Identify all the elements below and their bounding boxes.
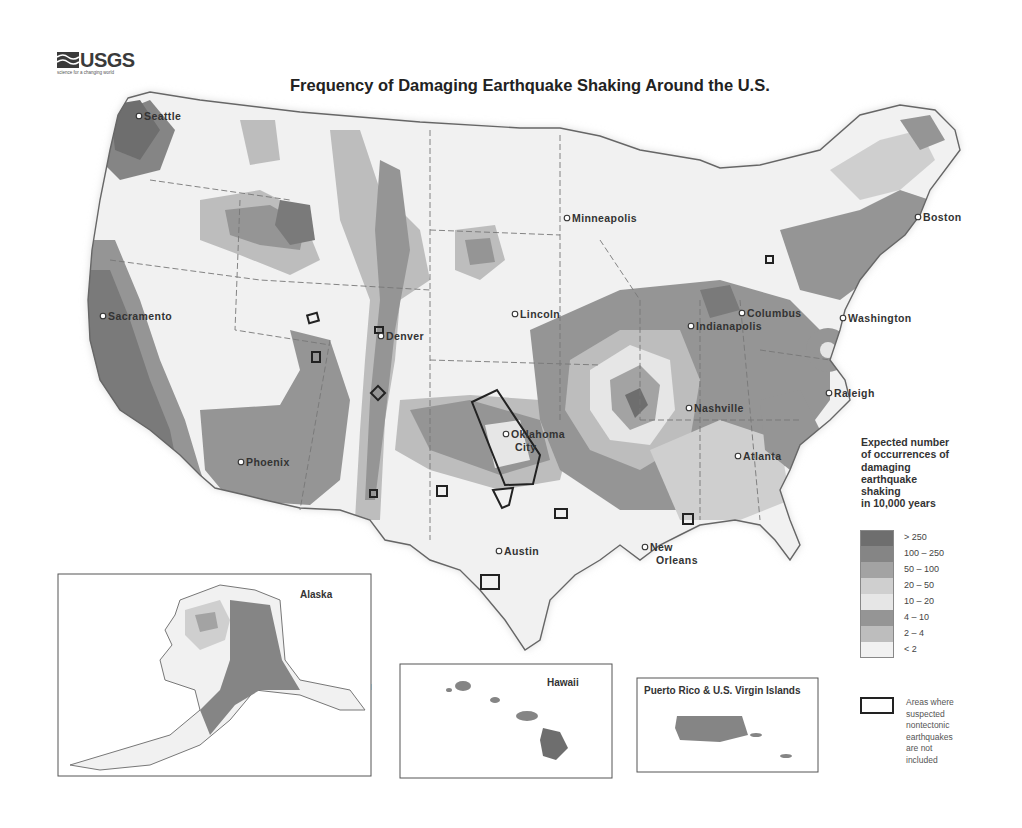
city-marker-icon bbox=[136, 113, 142, 119]
city-marker-icon bbox=[496, 548, 502, 554]
legend-item: 50 – 100 bbox=[860, 562, 990, 578]
legend-label: 100 – 250 bbox=[904, 548, 944, 558]
city-label: Denver bbox=[386, 330, 424, 342]
alaska-inset: Alaska bbox=[58, 574, 371, 776]
city-marker-icon bbox=[564, 215, 570, 221]
city-minneapolis: Minneapolis bbox=[564, 212, 637, 224]
legend-swatch bbox=[860, 610, 894, 626]
city-marker-icon bbox=[503, 431, 509, 437]
legend-label: > 250 bbox=[904, 532, 927, 542]
city-marker-icon bbox=[642, 544, 648, 550]
city-label: Orleans bbox=[656, 554, 698, 566]
city-label: Washington bbox=[848, 312, 912, 324]
city-label: Raleigh bbox=[834, 387, 875, 399]
legend-item: 4 – 10 bbox=[860, 610, 990, 626]
legend-label: 50 – 100 bbox=[904, 564, 939, 574]
hawaii-title: Hawaii bbox=[547, 677, 579, 688]
city-marker-icon bbox=[915, 214, 921, 220]
legend: > 250 100 – 250 50 – 100 20 – 50 10 – 20… bbox=[860, 530, 990, 658]
legend-title-line: shaking bbox=[861, 485, 991, 497]
city-label: City bbox=[515, 441, 536, 453]
city-label: Indianapolis bbox=[696, 320, 762, 332]
legend-swatch bbox=[860, 578, 894, 594]
city-label: Minneapolis bbox=[572, 212, 637, 224]
nontectonic-legend-label: Areas where suspected nontectonic earthq… bbox=[906, 697, 986, 766]
nontectonic-line: Areas where bbox=[906, 697, 986, 709]
hawaii-inset: Hawaii bbox=[400, 664, 612, 778]
legend-label: 10 – 20 bbox=[904, 596, 934, 606]
city-oklahoma: Oklahoma bbox=[503, 428, 565, 440]
nontectonic-line: suspected bbox=[906, 709, 986, 721]
legend-swatch bbox=[860, 642, 894, 658]
city-indianapolis: Indianapolis bbox=[688, 320, 762, 332]
city-marker-icon bbox=[826, 390, 832, 396]
legend-swatch bbox=[860, 562, 894, 578]
contiguous-us bbox=[70, 92, 960, 650]
alaska-title: Alaska bbox=[300, 589, 333, 600]
city-denver: Denver bbox=[378, 330, 424, 342]
legend-swatch bbox=[860, 546, 894, 562]
legend-label: 4 – 10 bbox=[904, 612, 929, 622]
legend-swatch bbox=[860, 530, 894, 546]
legend-swatch bbox=[860, 594, 894, 610]
city-washington: Washington bbox=[840, 312, 911, 324]
legend-label: 20 – 50 bbox=[904, 580, 934, 590]
legend-swatch bbox=[860, 626, 894, 642]
city-marker-icon bbox=[735, 453, 741, 459]
legend-title-line: damaging bbox=[861, 461, 991, 473]
city-phoenix: Phoenix bbox=[238, 456, 289, 468]
nontectonic-line: included bbox=[906, 755, 986, 767]
city-atlanta: Atlanta bbox=[735, 450, 781, 462]
puerto-rico-title: Puerto Rico & U.S. Virgin Islands bbox=[644, 685, 801, 696]
city-lincoln: Lincoln bbox=[512, 308, 560, 320]
city-label: Lincoln bbox=[520, 308, 560, 320]
nontectonic-line: are not bbox=[906, 743, 986, 755]
city-label: Boston bbox=[923, 211, 962, 223]
legend-title-line: in 10,000 years bbox=[861, 497, 991, 509]
legend-title-line: of occurrences of bbox=[861, 448, 991, 460]
city-columbus: Columbus bbox=[739, 307, 801, 319]
city-marker-icon bbox=[688, 323, 694, 329]
city-nashville: Nashville bbox=[686, 402, 744, 414]
nontectonic-line: earthquakes bbox=[906, 732, 986, 744]
city-marker-icon bbox=[739, 310, 745, 316]
city-label: Phoenix bbox=[246, 456, 290, 468]
legend-item: < 2 bbox=[860, 642, 990, 658]
city-label: New bbox=[650, 541, 673, 553]
city-label: Oklahoma bbox=[511, 428, 565, 440]
city-label: Nashville bbox=[694, 402, 744, 414]
nontectonic-legend-box bbox=[860, 697, 894, 714]
city-label: Atlanta bbox=[743, 450, 781, 462]
puerto-rico-inset: Puerto Rico & U.S. Virgin Islands bbox=[637, 678, 818, 772]
nontectonic-line: nontectonic bbox=[906, 720, 986, 732]
city-marker-icon bbox=[840, 315, 846, 321]
city-marker-icon bbox=[238, 459, 244, 465]
legend-item: 20 – 50 bbox=[860, 578, 990, 594]
legend-item: 100 – 250 bbox=[860, 546, 990, 562]
city-label: Sacramento bbox=[108, 310, 172, 322]
city-sacramento: Sacramento bbox=[100, 310, 172, 322]
city-marker-icon bbox=[378, 333, 384, 339]
legend-label: 2 – 4 bbox=[904, 628, 924, 638]
legend-label: < 2 bbox=[904, 644, 917, 654]
city-city: City bbox=[515, 441, 536, 453]
city-marker-icon bbox=[512, 311, 518, 317]
city-raleigh: Raleigh bbox=[826, 387, 875, 399]
city-orleans: Orleans bbox=[656, 554, 698, 566]
legend-item: > 250 bbox=[860, 530, 990, 546]
legend-title-line: earthquake bbox=[861, 473, 991, 485]
legend-item: 2 – 4 bbox=[860, 626, 990, 642]
city-label: Austin bbox=[504, 545, 539, 557]
city-boston: Boston bbox=[915, 211, 961, 223]
legend-title: Expected number of occurrences of damagi… bbox=[861, 436, 991, 510]
legend-title-line: Expected number bbox=[861, 436, 991, 448]
legend-item: 10 – 20 bbox=[860, 594, 990, 610]
city-label: Columbus bbox=[747, 307, 802, 319]
city-marker-icon bbox=[686, 405, 692, 411]
city-label: Seattle bbox=[144, 110, 181, 122]
city-marker-icon bbox=[100, 313, 106, 319]
